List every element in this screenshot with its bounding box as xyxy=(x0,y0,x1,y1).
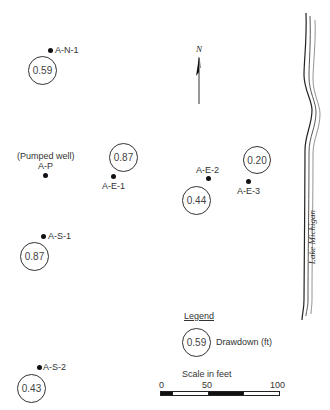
scale-segment-4 xyxy=(243,391,280,396)
legend-sample-label: Drawdown (ft) xyxy=(216,337,272,347)
well-label-a-e-3: A-E-3 xyxy=(237,186,260,196)
drawdown-circle-a-n-1: 0.59 xyxy=(28,56,57,85)
drawdown-circle-a-e-1: 0.87 xyxy=(109,143,138,172)
well-dot-a-s-1 xyxy=(41,234,46,239)
north-arrow: N xyxy=(190,44,210,106)
drawdown-circle-a-e-3: 0.20 xyxy=(243,146,271,174)
well-dot-a-e-1 xyxy=(111,174,116,179)
well-label-a-e-2: A-E-2 xyxy=(196,165,219,175)
legend-sample-circle: 0.59 xyxy=(182,328,211,357)
north-arrow-icon xyxy=(190,44,210,106)
well-label-a-p: A-P xyxy=(38,161,53,171)
pumped-well-note: (Pumped well) xyxy=(17,151,75,161)
drawdown-circle-a-s-1: 0.87 xyxy=(20,242,49,271)
drawdown-circle-a-e-2: 0.44 xyxy=(182,186,211,215)
well-label-a-s-2: A-S-2 xyxy=(43,362,66,372)
well-dot-a-p xyxy=(43,173,48,178)
well-dot-a-e-2 xyxy=(206,176,211,181)
scale-segment-3 xyxy=(208,391,244,396)
legend-title: Legend xyxy=(184,311,214,321)
scale-tick-100: 100 xyxy=(270,380,285,390)
well-label-a-n-1: A-N-1 xyxy=(55,45,79,55)
lake-michigan-label: Lake Michigan xyxy=(307,202,317,272)
drawdown-circle-a-s-2: 0.43 xyxy=(17,374,46,403)
well-dot-a-n-1 xyxy=(48,48,53,53)
scale-tick-0: 0 xyxy=(159,380,164,390)
well-dot-a-s-2 xyxy=(37,365,42,370)
well-label-a-e-1: A-E-1 xyxy=(102,181,125,191)
scale-segment-2 xyxy=(172,391,209,396)
well-label-a-s-1: A-S-1 xyxy=(48,231,71,241)
scale-title: Scale in feet xyxy=(182,369,232,379)
scale-tick-50: 50 xyxy=(202,380,212,390)
well-dot-a-e-3 xyxy=(246,179,251,184)
